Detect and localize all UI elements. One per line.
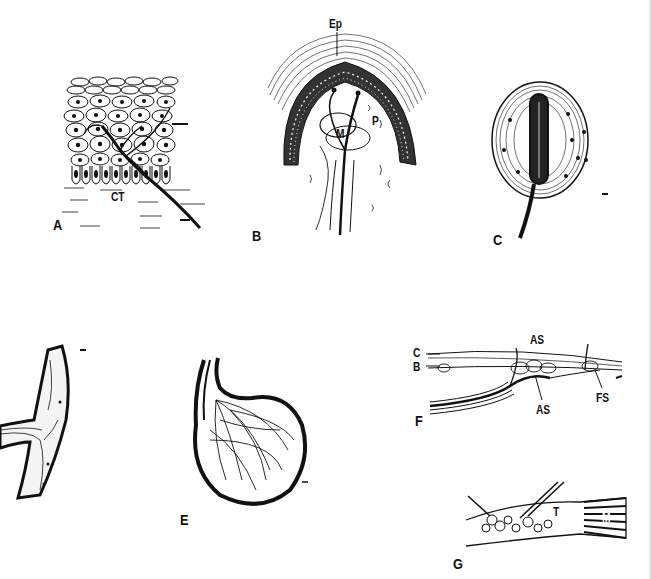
- panel-a: CT A: [40, 60, 220, 250]
- spherical-ending-drawing: [170, 330, 360, 530]
- panel-label-b: B: [252, 228, 261, 243]
- tendon-organ-endings: [482, 515, 552, 532]
- panel-label-e: E: [180, 512, 189, 527]
- connective-tissue-streaks: [62, 188, 205, 228]
- label-m: M: [336, 128, 345, 140]
- nerve-ending: [316, 92, 370, 235]
- ending-d-drawing: [0, 330, 120, 510]
- label-b: B: [413, 361, 420, 373]
- tendon-organ-drawing: [440, 480, 651, 579]
- nerve-stalk: [520, 184, 534, 238]
- label-m-muscle: M: [602, 512, 611, 524]
- nerve-terminals: [332, 88, 361, 96]
- panel-b: Ep M P B: [250, 0, 440, 250]
- panel-label-c: C: [493, 232, 502, 247]
- panel-d: [0, 330, 120, 510]
- spindle-drawing: [400, 330, 651, 430]
- panel-label-f: F: [415, 413, 423, 428]
- nerve-fibers: [468, 482, 564, 518]
- label-as-bottom: AS: [536, 404, 550, 416]
- superficial-cells: [67, 77, 178, 94]
- panel-e: E: [170, 330, 360, 530]
- label-ep: Ep: [329, 18, 342, 30]
- papilla-drawing: [250, 0, 440, 250]
- panel-c: C: [490, 80, 651, 250]
- panel-label-g: G: [453, 556, 463, 571]
- label-ct: CT: [111, 191, 125, 203]
- panel-g: T M G: [440, 480, 651, 579]
- corpuscle-drawing: [490, 80, 651, 250]
- panel-f: C B AS AS FS F: [400, 330, 651, 430]
- panel-label-a: A: [53, 217, 62, 232]
- branching-fibers: [210, 400, 294, 490]
- leader-lines: [426, 354, 602, 400]
- label-as-top: AS: [530, 334, 544, 346]
- label-p: P: [372, 115, 379, 127]
- label-fs: FS: [596, 392, 609, 404]
- epithelium-drawing: [40, 60, 220, 250]
- label-c-capsule: C: [413, 347, 420, 359]
- label-t: T: [553, 506, 559, 518]
- spindle-fibers: [428, 344, 622, 414]
